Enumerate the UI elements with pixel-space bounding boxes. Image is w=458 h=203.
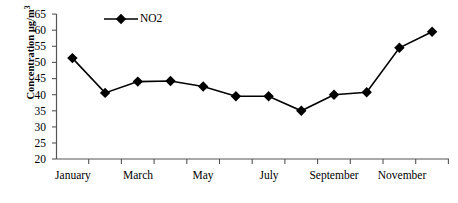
y-tick-label: 55 [24,41,46,53]
y-tick-label: 65 [24,9,46,21]
data-point [165,76,175,86]
y-tick-label: 45 [24,73,46,85]
legend: NO2 [104,13,162,25]
y-tick-label: 30 [24,122,46,134]
line-chart: Concentration µg/m3 65 60 55 50 45 40 35… [0,0,458,203]
x-tick-label-september: September [296,170,372,182]
y-tick-label: 40 [24,90,46,102]
y-tick-label: 25 [24,138,46,150]
y-axis-title-text: Concentration µg/m [25,9,36,99]
x-tick-label-may: May [174,170,232,182]
data-point [231,91,241,101]
y-tick-label: 50 [24,57,46,69]
y-tick-marks [52,14,57,159]
data-point [329,90,339,100]
legend-label-no2: NO2 [138,13,162,25]
y-tick-label: 20 [24,154,46,166]
data-point [427,27,437,37]
data-point [198,81,208,91]
x-tick-marks [89,159,449,164]
y-tick-label: 35 [24,106,46,118]
data-point [263,91,273,101]
x-tick-label-july: July [240,170,298,182]
y-tick-label: 60 [24,25,46,37]
legend-marker-no2 [104,13,138,25]
data-point [133,76,143,86]
x-tick-label-march: March [109,170,167,182]
data-point [296,106,306,116]
series-line-no2 [72,32,432,111]
x-tick-label-november: November [366,170,438,182]
x-tick-label-january: January [42,170,104,182]
